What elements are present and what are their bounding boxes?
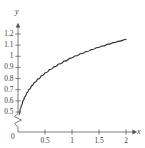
x-tick-label: 0.5 [40, 137, 49, 144]
y-tick-label: 0.6 [0, 97, 14, 104]
y-tick-label: 0.7 [0, 86, 14, 93]
plot-canvas [0, 0, 145, 148]
x-tick-label: 1.5 [94, 137, 103, 144]
chart-figure: 0 y x 1.21.110.90.80.70.60.5 0.511.52 [0, 0, 145, 148]
y-tick-label: 1.1 [0, 41, 14, 48]
data-curve [19, 39, 126, 115]
y-tick-label: 0.8 [0, 75, 14, 82]
y-axis-break-icon [14, 114, 21, 128]
x-axis-title: x [137, 128, 141, 136]
y-tick-label: 0.5 [0, 108, 14, 115]
x-tick-label: 1 [70, 137, 74, 144]
origin-label: 0 [11, 133, 15, 140]
y-tick-label: 1 [0, 53, 14, 60]
y-tick-label: 1.2 [0, 30, 14, 37]
x-tick-label: 2 [124, 137, 128, 144]
y-axis-title: y [15, 8, 19, 16]
y-tick-label: 0.9 [0, 64, 14, 71]
